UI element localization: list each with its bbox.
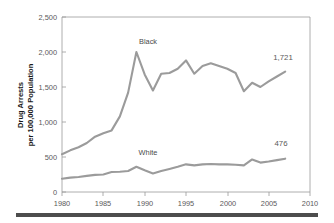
x-tick-label-2010: 2010 <box>302 199 318 208</box>
series-line-white <box>62 159 285 179</box>
bottom-divider-rule <box>16 213 318 217</box>
chart-figure: 2,500 2,000 1,500 1,000 500 0 1980 1985 … <box>0 0 334 223</box>
x-axis-tick-labels: 1980 1985 1990 1995 2000 2005 2010 <box>54 199 318 208</box>
y-axis-title: Drug Arrests per 100,000 Population <box>16 63 35 146</box>
x-tick-label-2000: 2000 <box>220 199 236 208</box>
y-tick-label-1500: 1,500 <box>39 83 58 92</box>
y-axis-tick-labels: 2,500 2,000 1,500 1,000 500 0 <box>39 13 58 197</box>
y-tick-label-500: 500 <box>45 153 57 162</box>
end-value-label-black: 1,721 <box>273 53 293 62</box>
y-tick-label-0: 0 <box>53 188 57 197</box>
series-line-black <box>62 52 285 154</box>
y-axis-title-line2: per 100,000 Population <box>26 63 35 146</box>
end-value-label-white: 476 <box>274 139 287 148</box>
y-tick-label-1000: 1,000 <box>39 118 58 127</box>
drug-arrests-line-chart: 2,500 2,000 1,500 1,000 500 0 1980 1985 … <box>0 0 334 223</box>
y-tick-label-2000: 2,000 <box>39 48 58 57</box>
x-tick-label-1995: 1995 <box>178 199 194 208</box>
y-axis-title-line1: Drug Arrests <box>16 82 25 128</box>
series-group <box>62 52 285 179</box>
x-tick-label-1980: 1980 <box>54 199 70 208</box>
x-axis-ticks <box>62 192 310 196</box>
series-label-black: Black <box>139 37 157 46</box>
x-tick-label-1990: 1990 <box>137 199 153 208</box>
series-label-white: White <box>139 148 158 157</box>
x-tick-label-1985: 1985 <box>95 199 111 208</box>
y-axis-ticks <box>62 17 66 192</box>
series-annotations: Black White 1,721 476 <box>139 37 293 157</box>
y-tick-label-2500: 2,500 <box>39 13 58 22</box>
plot-frame <box>62 17 310 192</box>
x-tick-label-2005: 2005 <box>261 199 277 208</box>
